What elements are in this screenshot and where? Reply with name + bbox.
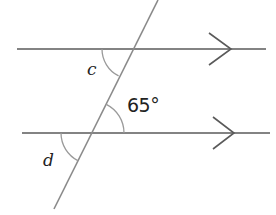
diagram-canvas: c 65° d bbox=[0, 0, 276, 215]
angle-d-label: d bbox=[43, 150, 54, 170]
angle-65-arc bbox=[106, 104, 124, 133]
angle-c-arc bbox=[102, 49, 119, 76]
angle-c-label: c bbox=[87, 59, 97, 79]
angle-d-arc bbox=[61, 133, 78, 161]
angle-65-label: 65° bbox=[127, 94, 159, 116]
